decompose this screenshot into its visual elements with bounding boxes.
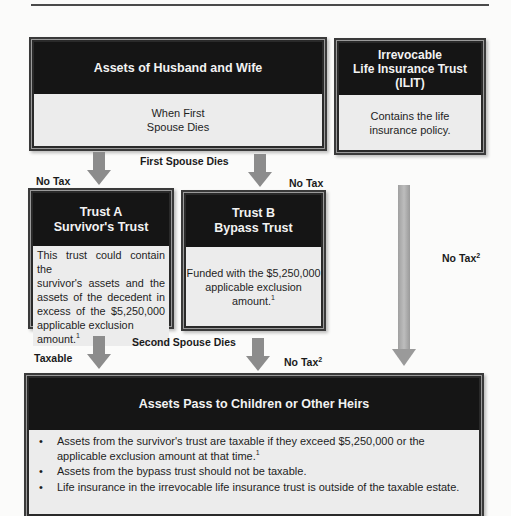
no-tax-right-label: No Tax — [289, 177, 323, 189]
heirs-header: Assets Pass to Children or Other Heirs — [29, 378, 479, 430]
trust-b-body-line1: Funded with the $5,250,000 — [187, 266, 321, 280]
heirs-bullet: Assets from the bypass trust should not … — [37, 464, 471, 479]
trust-a-body-line: excess of the $5,250,000 — [37, 304, 165, 318]
trust-b-title-line2: Bypass Trust — [214, 221, 293, 236]
spouse-dies-text: Spouse Dies — [147, 120, 209, 134]
trust-a-body-line: survivor's assets and the — [37, 276, 165, 290]
trust-b-body-line2: applicable exclusion amount.1 — [186, 280, 321, 308]
trust-a-body-line: This trust could contain the — [37, 248, 165, 276]
assets-husband-wife-header: Assets of Husband and Wife — [34, 42, 322, 94]
trust-a-header: Trust A Survivor's Trust — [33, 193, 169, 246]
first-spouse-dies-label: First Spouse Dies — [140, 155, 229, 167]
heirs-bullet-list: Assets from the survivor's trust are tax… — [29, 430, 479, 494]
heirs-title: Assets Pass to Children or Other Heirs — [139, 397, 370, 411]
ilit-header: Irrevocable Life Insurance Trust (ILIT) — [339, 43, 481, 95]
ilit-no-tax-label: No Tax2 — [442, 252, 480, 264]
trust-b-body: Funded with the $5,250,000 applicable ex… — [186, 247, 321, 326]
heirs-box: Assets Pass to Children or Other Heirs A… — [27, 376, 481, 516]
heirs-bullet: Assets from the survivor's trust are tax… — [37, 434, 471, 463]
ilit-title-line3: (ILIT) — [395, 76, 424, 90]
trust-b-header: Trust B Bypass Trust — [186, 195, 321, 247]
trust-b-title-line1: Trust B — [232, 206, 275, 221]
trust-b-box: Trust B Bypass Trust Funded with the $5,… — [184, 193, 323, 328]
ilit-title-line1: Irrevocable — [378, 48, 442, 62]
trust-a-title-line1: Trust A — [80, 205, 123, 220]
trust-a-body-line: assets of the decedent in — [37, 290, 165, 304]
arrow-trust-a-to-heirs-icon — [87, 336, 111, 370]
ilit-body-line1: Contains the life — [371, 109, 450, 123]
arrow-trust-b-to-heirs-icon — [246, 338, 270, 372]
heirs-bullet: Life insurance in the irrevocable life i… — [37, 480, 471, 495]
taxable-label: Taxable — [34, 352, 72, 364]
trust-a-box: Trust A Survivor's Trust This trust coul… — [31, 191, 171, 326]
top-rule — [31, 4, 489, 6]
assets-husband-wife-title: Assets of Husband and Wife — [94, 61, 263, 75]
trust-a-title-line2: Survivor's Trust — [54, 220, 149, 235]
arrow-ilit-to-heirs-icon — [392, 185, 416, 367]
second-spouse-dies-label: Second Spouse Dies — [132, 336, 236, 348]
ilit-box: Irrevocable Life Insurance Trust (ILIT) … — [337, 41, 483, 152]
trust-a-body: This trust could contain the survivor's … — [33, 246, 169, 346]
when-first-text: When First — [151, 106, 204, 120]
arrow-down-to-trust-b-icon — [248, 154, 272, 188]
arrow-down-to-trust-a-icon — [87, 152, 111, 186]
no-tax-left-label: No Tax — [36, 175, 70, 187]
assets-husband-wife-box: Assets of Husband and Wife When First Sp… — [32, 40, 324, 148]
assets-husband-wife-body: When First Spouse Dies — [34, 94, 322, 146]
bypass-no-tax-label: No Tax2 — [284, 356, 322, 368]
ilit-title-line2: Life Insurance Trust — [353, 62, 467, 76]
ilit-body: Contains the life insurance policy. — [339, 95, 481, 150]
ilit-body-line2: insurance policy. — [369, 123, 450, 137]
